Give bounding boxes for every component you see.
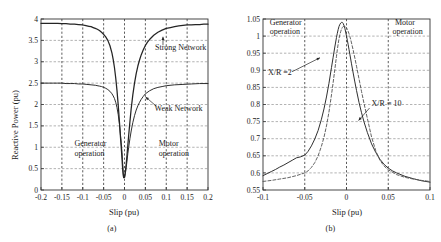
panel-a: -0.2-0.15-0.1-0.0500.050.10.150.200.511.… [0, 0, 220, 242]
chart-a-caption: (a) [2, 224, 222, 233]
svg-text:0.1: 0.1 [162, 193, 172, 202]
svg-text:-0.05: -0.05 [96, 193, 112, 202]
svg-text:0: 0 [123, 193, 127, 202]
svg-text:0.65: 0.65 [247, 151, 260, 160]
svg-text:4: 4 [34, 15, 38, 24]
annotation-label: Weak Network [155, 104, 203, 113]
svg-text:0.15: 0.15 [180, 193, 193, 202]
annotation-label: operation [270, 27, 300, 36]
svg-text:0.5: 0.5 [29, 164, 39, 173]
annotation-label: X/R =2 [268, 68, 292, 77]
annotation-label: Motor [395, 18, 415, 27]
svg-text:0: 0 [345, 193, 349, 202]
svg-text:0.1: 0.1 [425, 193, 435, 202]
annotation-label: operation [159, 149, 189, 158]
svg-text:0.55: 0.55 [247, 186, 260, 195]
svg-text:0.6: 0.6 [251, 169, 261, 178]
svg-text:0.7: 0.7 [251, 134, 261, 143]
annotation-label: operation [74, 149, 104, 158]
svg-text:1.05: 1.05 [247, 15, 260, 24]
svg-text:0.75: 0.75 [247, 117, 260, 126]
svg-text:2: 2 [34, 100, 38, 109]
figure-container: -0.2-0.15-0.1-0.0500.050.10.150.200.511.… [0, 0, 441, 242]
chart-a-y-axis-title: Reactive Power (pu) [10, 90, 20, 160]
svg-text:1: 1 [256, 32, 260, 41]
chart-a-plot: -0.2-0.15-0.1-0.0500.050.10.150.200.511.… [0, 0, 220, 205]
svg-text:1: 1 [34, 143, 38, 152]
svg-text:-0.05: -0.05 [297, 193, 313, 202]
panel-b: -0.1-0.0500.050.10.550.60.650.70.750.80.… [220, 0, 441, 242]
svg-text:2.5: 2.5 [29, 79, 39, 88]
svg-text:0: 0 [34, 186, 38, 195]
chart-b-x-axis-title: Slip (pu) [262, 207, 432, 217]
chart-b-caption: (b) [220, 224, 441, 233]
svg-text:3.5: 3.5 [29, 36, 39, 45]
svg-text:0.9: 0.9 [251, 66, 261, 75]
svg-text:-0.1: -0.1 [77, 193, 89, 202]
svg-text:3: 3 [34, 57, 38, 66]
annotation-label: Motor [159, 139, 179, 148]
svg-text:0.05: 0.05 [139, 193, 152, 202]
svg-text:0.2: 0.2 [203, 193, 213, 202]
svg-text:-0.15: -0.15 [54, 193, 70, 202]
annotation-label: Generator [74, 139, 106, 148]
svg-text:1.5: 1.5 [29, 121, 39, 130]
annotation-label: operation [392, 27, 422, 36]
svg-text:0.8: 0.8 [251, 100, 261, 109]
svg-text:0.95: 0.95 [247, 49, 260, 58]
svg-text:0.85: 0.85 [247, 83, 260, 92]
chart-b-plot: -0.1-0.0500.050.10.550.60.650.70.750.80.… [220, 0, 441, 205]
svg-text:0.05: 0.05 [382, 193, 395, 202]
annotation-label: Generator [270, 18, 302, 27]
annotation-label: X/R = 10 [372, 99, 402, 108]
chart-a-x-axis-title: Slip (pu) [40, 207, 208, 217]
